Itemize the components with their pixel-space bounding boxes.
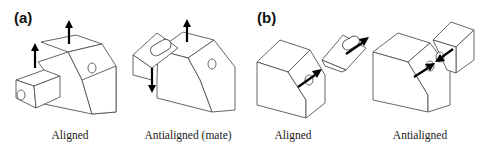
arrowhead-icon — [183, 19, 191, 27]
arrowhead-icon — [31, 43, 39, 51]
block-a-antialigned — [133, 32, 235, 112]
block-b-antialigned — [373, 22, 474, 112]
cylinder-icon — [17, 90, 25, 100]
caption-a-antialigned: Antialigned (mate) — [144, 130, 231, 142]
caption-b-aligned: Aligned — [274, 130, 311, 142]
hole-icon — [88, 63, 96, 73]
block-b-aligned — [257, 34, 366, 118]
caption-b-antialigned: Antialigned — [393, 130, 447, 142]
figure-canvas: (a) (b) — [0, 0, 487, 151]
caption-a-aligned: Aligned — [51, 130, 88, 142]
arrowhead-icon — [148, 85, 156, 93]
block-a-aligned — [16, 35, 116, 114]
arrowhead-icon — [65, 20, 73, 28]
hole-icon — [208, 59, 216, 69]
